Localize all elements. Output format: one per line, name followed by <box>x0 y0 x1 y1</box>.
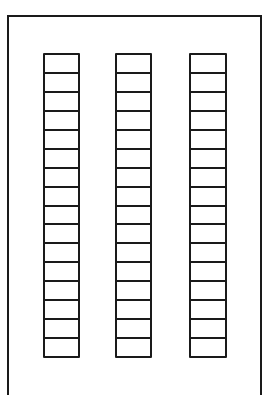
grid-cell <box>45 320 78 339</box>
grid-cell <box>117 188 150 207</box>
grid-cell <box>117 207 150 226</box>
grid-cell <box>45 188 78 207</box>
column-1 <box>43 53 80 358</box>
grid-cell <box>117 55 150 74</box>
grid-cell <box>117 320 150 339</box>
grid-cell <box>191 301 225 320</box>
grid-cell <box>45 282 78 301</box>
grid-cell <box>191 263 225 282</box>
grid-cell <box>191 188 225 207</box>
grid-cell <box>117 112 150 131</box>
grid-cell <box>45 131 78 150</box>
grid-cell <box>45 93 78 112</box>
grid-cell <box>117 301 150 320</box>
grid-cell <box>117 244 150 263</box>
grid-cell <box>191 207 225 226</box>
grid-cell <box>45 244 78 263</box>
column-3 <box>189 53 227 358</box>
grid-cell <box>191 320 225 339</box>
grid-cell <box>45 339 78 356</box>
grid-cell <box>117 225 150 244</box>
grid-cell <box>45 301 78 320</box>
grid-cell <box>117 169 150 188</box>
grid-cell <box>191 93 225 112</box>
grid-cell <box>45 55 78 74</box>
grid-cell <box>45 112 78 131</box>
grid-cell <box>191 150 225 169</box>
grid-cell <box>191 225 225 244</box>
grid-cell <box>191 282 225 301</box>
grid-cell <box>45 74 78 93</box>
grid-cell <box>191 131 225 150</box>
grid-cell <box>117 282 150 301</box>
grid-cell <box>117 74 150 93</box>
grid-cell <box>117 150 150 169</box>
grid-cell <box>191 112 225 131</box>
grid-cell <box>191 74 225 93</box>
grid-cell <box>191 55 225 74</box>
grid-cell <box>117 339 150 356</box>
grid-cell <box>45 207 78 226</box>
grid-cell <box>191 339 225 356</box>
grid-cell <box>45 150 78 169</box>
grid-cell <box>45 225 78 244</box>
grid-cell <box>191 244 225 263</box>
grid-cell <box>191 169 225 188</box>
column-2 <box>115 53 152 358</box>
grid-cell <box>117 93 150 112</box>
grid-cell <box>45 263 78 282</box>
grid-cell <box>117 131 150 150</box>
grid-cell <box>117 263 150 282</box>
grid-cell <box>45 169 78 188</box>
